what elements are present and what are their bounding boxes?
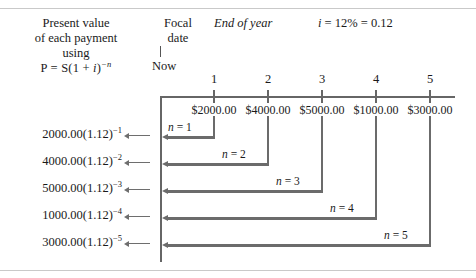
- period-label-value-n3: = 3: [282, 175, 300, 187]
- present-value-formula-row-4: 1000.00(1.12)−4: [14, 208, 122, 223]
- bracket-bar-n3: [167, 190, 323, 193]
- period-label-n4: n = 4: [330, 202, 354, 214]
- present-value-base-1: 2000.00(1.12): [42, 127, 113, 141]
- present-value-base-5: 3000.00(1.12): [42, 235, 113, 249]
- timeline-tick-label-2: 2: [258, 72, 278, 87]
- focal-line-1: Focal: [152, 16, 204, 31]
- bracket-arrowhead-n1: [162, 134, 168, 140]
- focal-date-pointer: [160, 46, 161, 57]
- now-label: Now: [152, 59, 176, 74]
- bottom-divider: [0, 270, 476, 271]
- present-value-exponent-5: −5: [113, 233, 122, 243]
- discount-arrowhead-1: [124, 133, 129, 139]
- period-label-value-n2: = 2: [228, 148, 246, 160]
- bracket-drop-n2: [267, 116, 270, 166]
- top-divider: [0, 8, 476, 9]
- timeline-tick-1: [213, 90, 215, 103]
- period-label-value-n5: = 5: [390, 229, 408, 241]
- present-value-exponent-3: −3: [113, 179, 122, 189]
- rate-value: = 12% = 0.12: [321, 16, 392, 30]
- discount-arrowhead-4: [124, 214, 129, 220]
- timeline-tick-label-4: 4: [366, 72, 386, 87]
- timeline-tick-3: [321, 90, 323, 103]
- present-value-exponent-4: −4: [113, 206, 122, 216]
- present-value-formula-row-3: 5000.00(1.12)−3: [14, 181, 122, 196]
- end-of-year-label: End of year: [214, 16, 272, 31]
- discount-arrow-line-3: [128, 189, 150, 190]
- discount-arrowhead-5: [124, 241, 129, 247]
- heading-line-2: of each payment: [6, 31, 146, 46]
- present-value-formula-row-1: 2000.00(1.12)−1: [14, 127, 122, 142]
- formula-prefix: P = S(1 +: [41, 61, 93, 75]
- discount-arrowhead-3: [124, 187, 129, 193]
- focal-date-vertical-line: [160, 96, 162, 262]
- present-value-formula-row-2: 4000.00(1.12)−2: [14, 154, 122, 169]
- discount-arrowhead-2: [124, 160, 129, 166]
- formula-exponent: −n: [101, 59, 111, 69]
- present-value-formula: P = S(1 + i)−n: [6, 61, 146, 76]
- present-value-base-3: 5000.00(1.12): [42, 181, 113, 195]
- timeline-tick-label-1: 1: [204, 72, 224, 87]
- period-label-n5: n = 5: [384, 229, 408, 241]
- bracket-bar-n5: [167, 244, 431, 247]
- timeline-tick-4: [375, 90, 377, 103]
- period-label-n2: n = 2: [222, 148, 246, 160]
- interest-rate-label: i = 12% = 0.12: [318, 16, 393, 31]
- bracket-arrowhead-n2: [162, 161, 168, 167]
- heading-line-1: Present value: [6, 16, 146, 31]
- timeline-tick-5: [429, 90, 431, 103]
- present-value-base-4: 1000.00(1.12): [42, 208, 113, 222]
- timeline-axis: [160, 96, 455, 98]
- timeline-tick-label-5: 5: [420, 72, 440, 87]
- bracket-arrowhead-n3: [162, 188, 168, 194]
- bracket-bar-n4: [167, 217, 377, 220]
- present-value-exponent-2: −2: [113, 152, 122, 162]
- bracket-arrowhead-n4: [162, 215, 168, 221]
- bracket-bar-n1: [167, 136, 215, 139]
- present-value-formula-row-5: 3000.00(1.12)−5: [14, 235, 122, 250]
- focal-line-2: date: [152, 31, 204, 46]
- period-label-n1: n = 1: [168, 121, 192, 133]
- timeline-tick-label-3: 3: [312, 72, 332, 87]
- timeline-tick-2: [267, 90, 269, 103]
- discount-arrow-line-4: [128, 216, 150, 217]
- bracket-drop-n5: [429, 116, 432, 247]
- bracket-bar-n2: [167, 163, 269, 166]
- discount-arrow-line-2: [128, 162, 150, 163]
- bracket-arrowhead-n5: [162, 242, 168, 248]
- heading-line-3: using: [6, 46, 146, 61]
- period-label-n3: n = 3: [276, 175, 300, 187]
- present-value-exponent-1: −1: [113, 125, 122, 135]
- present-value-base-2: 4000.00(1.12): [42, 154, 113, 168]
- period-label-value-n4: = 4: [336, 202, 354, 214]
- focal-date-heading: Focal date: [152, 16, 204, 46]
- bracket-drop-n4: [375, 116, 378, 220]
- discount-arrow-line-5: [128, 243, 150, 244]
- period-label-value-n1: = 1: [174, 121, 192, 133]
- present-value-heading: Present value of each payment using P = …: [6, 16, 146, 76]
- time-value-of-money-diagram: Present value of each payment using P = …: [0, 0, 476, 278]
- bracket-drop-n3: [321, 116, 324, 193]
- discount-arrow-line-1: [128, 135, 150, 136]
